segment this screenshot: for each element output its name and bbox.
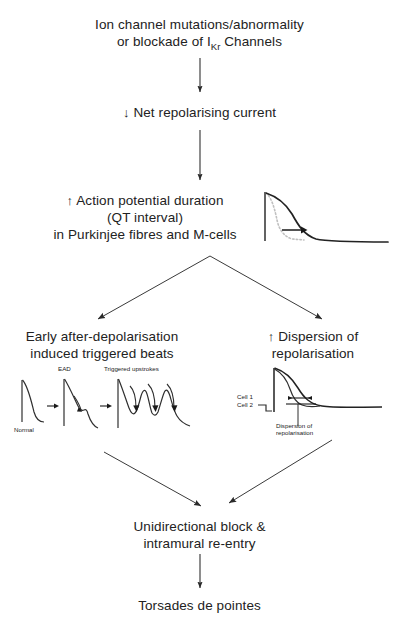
node-dispersion-of-repolarisation: ↑ Dispersion of repolarisation bbox=[228, 328, 398, 362]
dispersion-inset-label-cell1: Cell 1 bbox=[237, 393, 253, 400]
node-trigger: Ion channel mutations/abnormality or blo… bbox=[0, 16, 399, 55]
node-torsades-label: Torsades de pointes bbox=[0, 597, 399, 614]
dispersion-trace-inset: Cell 1 Cell 2 Dispersion of repolarisati… bbox=[232, 360, 384, 438]
down-arrow-glyph: ↓ bbox=[123, 105, 130, 120]
node-torsades-de-pointes: Torsades de pointes bbox=[0, 597, 399, 614]
connector-ead-to-block bbox=[104, 452, 201, 506]
ead-inset-label-ead: EAD bbox=[58, 365, 71, 372]
ap-normal-dotted-curve bbox=[266, 193, 304, 240]
node-trigger-line2-pre: or blockade of I bbox=[117, 34, 211, 49]
flowchart-page: Ion channel mutations/abnormality or blo… bbox=[0, 0, 399, 626]
ead-panel-ead bbox=[64, 379, 98, 428]
ead-sequence-inset: Normal EAD Triggered upstrokes bbox=[14, 366, 204, 438]
node-apd-line1: Action potential duration bbox=[76, 193, 223, 208]
action-potential-inset bbox=[256, 184, 396, 248]
ead-panel-triggered bbox=[118, 379, 190, 428]
node-trigger-line1: Ion channel mutations/abnormality bbox=[0, 16, 399, 33]
dispersion-inset-label-cell2: Cell 2 bbox=[237, 401, 253, 408]
node-trigger-line2: or blockade of IKr Channels bbox=[0, 33, 399, 55]
ead-arrow-2 bbox=[100, 404, 112, 409]
connector-apd-to-dispersion bbox=[210, 256, 322, 319]
connector-apd-to-ead bbox=[98, 256, 210, 319]
dispersion-inset-annotation-line2: repolarisation bbox=[276, 429, 313, 436]
node-trigger-ikr-subscript: Kr bbox=[211, 41, 221, 52]
node-ead-line1: Early after-depolarisation bbox=[4, 328, 200, 345]
node-ead-line2: induced triggered beats bbox=[4, 345, 200, 362]
node-net-current-label: Net repolarising current bbox=[133, 105, 276, 120]
node-dispersion-line1: Dispersion of bbox=[278, 329, 358, 344]
ead-arrow-1 bbox=[47, 404, 59, 409]
node-block-line1: Unidirectional block & bbox=[0, 518, 399, 535]
node-net-repolarising-current: ↓ Net repolarising current bbox=[0, 104, 399, 121]
up-arrow-glyph-dispersion: ↑ bbox=[268, 329, 275, 344]
ead-panel-normal bbox=[22, 380, 44, 422]
node-action-potential-duration: ↑ Action potential duration (QT interval… bbox=[0, 192, 290, 243]
connector-dispersion-to-block bbox=[229, 440, 332, 503]
node-block-line2: intramural re-entry bbox=[0, 535, 399, 552]
dispersion-baseline-steps bbox=[258, 405, 272, 411]
node-trigger-line2-post: Channels bbox=[220, 34, 282, 49]
node-early-after-depolarisation: Early after-depolarisation induced trigg… bbox=[4, 328, 200, 362]
up-arrow-glyph: ↑ bbox=[66, 193, 73, 208]
ead-sequence-inset-svg bbox=[14, 366, 204, 438]
node-apd-line3: in Purkinjee fibres and M-cells bbox=[0, 226, 290, 243]
action-potential-inset-svg bbox=[256, 184, 396, 248]
ead-inset-label-triggered-upstrokes: Triggered upstrokes bbox=[104, 365, 159, 372]
dispersion-cell1-curve bbox=[275, 368, 383, 407]
node-unidirectional-block: Unidirectional block & intramural re-ent… bbox=[0, 518, 399, 552]
node-apd-line2: (QT interval) bbox=[0, 209, 290, 226]
ead-inset-label-normal: Normal bbox=[14, 426, 34, 433]
